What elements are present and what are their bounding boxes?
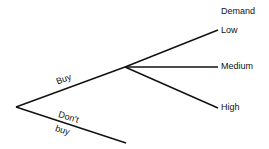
outcome-medium: Medium (221, 62, 253, 71)
decision-tree-lines (0, 0, 269, 149)
low-branch (125, 30, 218, 67)
outcome-high: High (221, 103, 240, 112)
demand-header: Demand (221, 7, 255, 16)
high-branch (125, 67, 218, 108)
outcome-low: Low (221, 26, 238, 35)
